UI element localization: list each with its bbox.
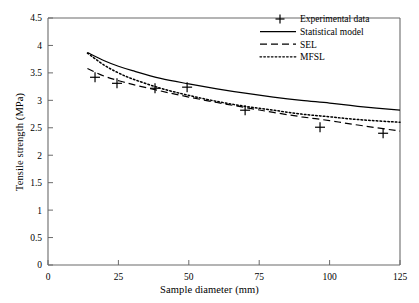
y-tick-label: 0.5	[30, 233, 42, 243]
chart-legend: Experimental dataStatistical modelSELMFS…	[243, 9, 406, 63]
y-axis-title-wrap: Tensile strength (MPa)	[9, 52, 27, 232]
y-tick-label: 2.5	[30, 123, 42, 133]
legend-label: SEL	[300, 40, 317, 50]
x-tick-label: 0	[46, 272, 51, 282]
data-point-marker	[378, 128, 388, 138]
x-tick-label: 50	[184, 272, 194, 282]
data-point-marker	[112, 78, 122, 88]
x-axis-ticks: 0255075100125	[46, 260, 408, 282]
y-axis-title: Tensile strength (MPa)	[14, 93, 25, 191]
x-axis-title: Sample diameter (mm)	[0, 284, 419, 295]
x-tick-label: 25	[114, 272, 124, 282]
y-tick-label: 1	[37, 206, 42, 216]
data-series-layer	[87, 53, 400, 131]
chart-plot-area: 00.511.522.533.544.5 0255075100125 Exper…	[0, 0, 419, 303]
y-tick-label: 3.5	[30, 68, 42, 78]
y-tick-label: 1.5	[30, 178, 42, 188]
data-point-marker	[315, 122, 325, 132]
y-tick-label: 2	[37, 151, 42, 161]
legend-label: MFSL	[300, 52, 325, 62]
y-tick-label: 4.5	[30, 13, 42, 23]
y-axis-ticks: 00.511.522.533.544.5	[30, 13, 53, 270]
series-line-sel	[87, 69, 400, 132]
x-tick-label: 125	[393, 272, 408, 282]
series-line-mfsl	[87, 53, 400, 122]
legend-label: Experimental data	[300, 14, 370, 24]
chart-figure: 00.511.522.533.544.5 0255075100125 Exper…	[0, 0, 419, 303]
y-tick-label: 3	[37, 96, 42, 106]
x-tick-label: 100	[322, 272, 337, 282]
legend-label: Statistical model	[300, 27, 364, 37]
y-tick-label: 4	[37, 41, 42, 51]
y-tick-label: 0	[37, 260, 42, 270]
x-tick-label: 75	[254, 272, 264, 282]
